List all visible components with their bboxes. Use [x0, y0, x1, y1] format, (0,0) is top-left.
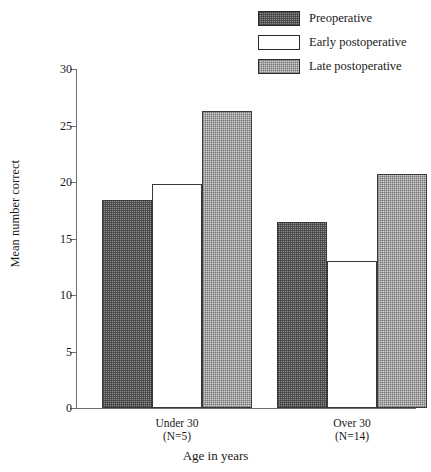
group-sample-size: (N=14): [292, 430, 412, 443]
bar-over-30-late-postoperative: [377, 174, 427, 408]
x-axis-title: Age in years: [0, 448, 431, 464]
y-axis-line: [76, 69, 77, 408]
legend-swatch-early-postoperative: [258, 35, 300, 50]
legend-label-preoperative: Preoperative: [309, 12, 372, 25]
legend-item-early-postoperative: Early postoperative: [258, 32, 430, 53]
y-axis-title: Mean number correct: [8, 160, 23, 268]
y-tick-label-10: 10: [42, 289, 72, 301]
y-tick-label-25: 25: [42, 120, 72, 132]
legend-swatch-preoperative: [258, 11, 300, 26]
bar-under-30-early-postoperative: [152, 184, 202, 408]
y-tick-label-20: 20: [42, 176, 72, 188]
group-name: Under 30: [117, 417, 237, 430]
group-label-under-30: Under 30(N=5): [117, 417, 237, 443]
bar-chart-figure: Preoperative Early postoperative Late po…: [0, 0, 431, 472]
y-tick-label-5: 5: [42, 346, 72, 358]
group-label-over-30: Over 30(N=14): [292, 417, 412, 443]
bar-under-30-preoperative: [102, 200, 152, 408]
group-sample-size: (N=5): [117, 430, 237, 443]
legend-label-early-postoperative: Early postoperative: [309, 36, 407, 49]
bar-over-30-preoperative: [277, 222, 327, 408]
plot-area: 051015202530: [76, 69, 416, 408]
bar-over-30-early-postoperative: [327, 261, 377, 408]
x-axis-line: [76, 408, 416, 409]
bar-under-30-late-postoperative: [202, 111, 252, 408]
legend-item-preoperative: Preoperative: [258, 8, 430, 29]
y-tick-label-30: 30: [42, 63, 72, 75]
group-name: Over 30: [292, 417, 412, 430]
y-tick-label-15: 15: [42, 233, 72, 245]
y-tick-label-0: 0: [42, 402, 72, 414]
